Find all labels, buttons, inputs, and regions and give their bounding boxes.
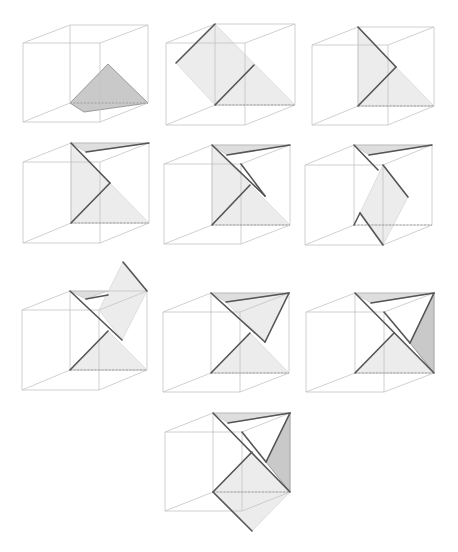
- cube-connector-edge: [163, 373, 211, 392]
- panel-step-3: [312, 27, 434, 125]
- cube-connector-edge: [23, 25, 70, 43]
- cube-connector-edge: [306, 293, 355, 312]
- panel-step-5: [164, 145, 290, 244]
- cube-connector-edge: [100, 25, 148, 43]
- cube-connector-edge: [23, 223, 71, 243]
- cube-front-face: [306, 312, 384, 392]
- cube-connector-edge: [306, 373, 355, 392]
- cube-connector-edge: [241, 225, 290, 244]
- cube-connector-edge: [164, 225, 212, 244]
- cube-connector-edge: [245, 105, 295, 125]
- light-face: [176, 24, 295, 105]
- cube-connector-edge: [312, 27, 358, 45]
- light-face: [99, 262, 147, 340]
- shaded-face: [70, 64, 148, 112]
- cube-connector-edge: [384, 373, 434, 392]
- panel-step-2: [166, 24, 295, 125]
- cube-connector-edge: [163, 293, 211, 312]
- panel-step-4: [23, 143, 149, 243]
- cube-connector-edge: [166, 105, 215, 125]
- cube-connector-edge: [22, 370, 70, 390]
- cube-folding-diagram: [0, 0, 458, 552]
- cube-connector-edge: [22, 291, 70, 310]
- cube-connector-edge: [23, 103, 70, 122]
- cube-connector-edge: [388, 27, 434, 45]
- cube-front-face: [22, 310, 99, 390]
- cube-connector-edge: [305, 145, 354, 165]
- cube-connector-edge: [164, 145, 212, 164]
- cube-connector-edge: [165, 413, 213, 432]
- panel-step-7: [22, 262, 147, 390]
- panel-step-10: [165, 413, 290, 531]
- cube-connector-edge: [388, 106, 434, 125]
- light-face: [211, 333, 289, 373]
- cube-connector-edge: [245, 24, 295, 43]
- cube-connector-edge: [305, 225, 354, 245]
- cube-connector-edge: [312, 106, 358, 125]
- cube-connector-edge: [100, 223, 149, 243]
- light-face: [70, 331, 147, 370]
- cube-connector-edge: [165, 492, 213, 511]
- panel-step-6: [305, 145, 432, 245]
- panel-step-9: [306, 293, 434, 392]
- light-face: [360, 165, 408, 245]
- fold-line: [354, 213, 360, 225]
- cube-connector-edge: [240, 373, 289, 392]
- panel-step-8: [163, 293, 289, 392]
- cube-connector-edge: [99, 370, 147, 390]
- panel-step-1: [23, 25, 148, 122]
- cube-front-face: [163, 312, 240, 392]
- cube-connector-edge: [23, 143, 71, 162]
